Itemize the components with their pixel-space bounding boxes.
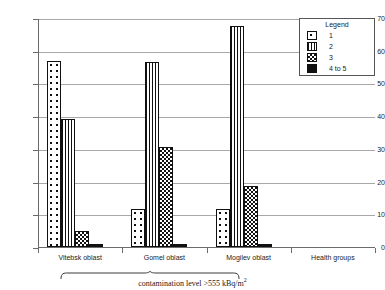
bar-chart: 010203040506070 Vitebsk oblastGomel obla…	[0, 0, 385, 290]
gridline	[39, 150, 375, 151]
bar	[61, 119, 75, 247]
x-axis-tick-mark	[375, 248, 376, 253]
legend-swatch-icon	[307, 31, 317, 40]
legend-label: 1	[329, 32, 333, 40]
bar	[216, 209, 230, 247]
x-axis-tick-mark	[207, 248, 208, 253]
annotation-superscript: 2	[244, 277, 247, 283]
bar	[173, 244, 187, 247]
gridline	[39, 215, 375, 216]
x-axis-tick-mark	[38, 248, 39, 253]
legend-swatch-icon	[307, 64, 317, 73]
x-axis-tick-mark	[291, 248, 292, 253]
bar	[47, 61, 61, 247]
bar	[89, 244, 103, 247]
gridline	[39, 117, 375, 118]
legend-swatch-icon	[307, 53, 317, 62]
bar	[159, 147, 173, 247]
legend-title: Legend	[300, 21, 374, 29]
legend-label: 3	[329, 54, 333, 62]
bar	[230, 26, 244, 247]
annotation-text: contamination level >555 kBq/m	[138, 279, 244, 288]
bar	[131, 209, 145, 247]
x-axis-tick-mark	[122, 248, 123, 253]
x-axis-category-label: Health groups	[291, 254, 375, 262]
bar	[75, 231, 89, 247]
legend-label: 4 to 5	[329, 65, 347, 73]
bar	[258, 244, 272, 247]
bar	[244, 186, 258, 247]
gridline	[39, 183, 375, 184]
legend-label: 2	[329, 43, 333, 51]
legend: Legend 1234 to 5	[299, 18, 375, 76]
x-axis-category-label: Mogilev oblast	[207, 254, 291, 262]
x-axis-category-label: Gomel oblast	[122, 254, 206, 262]
legend-swatch-icon	[307, 42, 317, 51]
annotation-brace	[60, 266, 240, 275]
x-axis-category-label: Vitebsk oblast	[38, 254, 122, 262]
bar	[145, 62, 159, 247]
annotation-caption: contamination level >555 kBq/m2	[0, 275, 385, 289]
gridline	[39, 84, 375, 85]
